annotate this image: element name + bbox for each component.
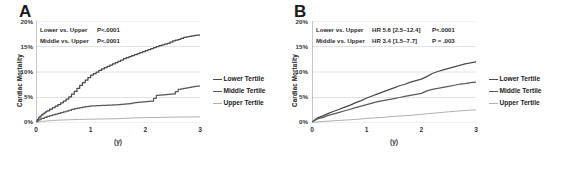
panel-a-legend-item-lower: Lower Tertile <box>213 73 266 85</box>
panel-b-xtick-3: 3 <box>469 127 483 134</box>
panel-a-ytick-0: 0% <box>14 119 33 125</box>
panel-a-ytick-2: 10% <box>14 69 33 75</box>
panel-b-legend-label-middle: Middle Tertile <box>500 88 542 95</box>
panel-b-plot-area <box>312 21 476 123</box>
legend-swatch-lower-icon <box>489 79 498 80</box>
legend-swatch-lower-icon <box>213 79 222 80</box>
figure-container: A Cardiac Mortality 0% 5% 10% 15% 20% Lo… <box>0 0 565 170</box>
panel-b-xtick-1: 1 <box>360 127 374 134</box>
panel-a-xaxis-title: (y) <box>88 139 148 146</box>
panel-a-legend-item-middle: Middle Tertile <box>213 85 266 97</box>
panel-b-xaxis-title: (y) <box>364 139 424 146</box>
panel-a-xtick-2: 2 <box>138 127 152 134</box>
panel-a: A Cardiac Mortality 0% 5% 10% 15% 20% Lo… <box>0 0 283 170</box>
panel-a-legend-label-middle: Middle Tertile <box>224 88 266 95</box>
panel-b-ytick-4: 20% <box>289 19 308 25</box>
legend-swatch-middle-icon <box>213 91 222 92</box>
panel-a-ytick-4: 20% <box>14 19 33 25</box>
panel-b-yaxis-title: Cardiac Mortality <box>291 46 298 116</box>
panel-b-ytick-0: 0% <box>289 119 308 125</box>
legend-swatch-upper-icon <box>489 103 498 104</box>
panel-a-legend-label-lower: Lower Tertile <box>224 76 265 83</box>
panel-a-ytick-3: 15% <box>14 44 33 50</box>
panel-b-xtick-0: 0 <box>305 127 319 134</box>
panel-b-legend-label-upper: Upper Tertile <box>500 100 540 107</box>
legend-swatch-middle-icon <box>489 91 498 92</box>
panel-b-ytick-3: 15% <box>289 44 308 50</box>
panel-a-legend: Lower Tertile Middle Tertile Upper Terti… <box>213 73 266 109</box>
panel-b-xtick-2: 2 <box>414 127 428 134</box>
panel-a-legend-label-upper: Upper Tertile <box>224 100 264 107</box>
panel-a-ytick-1: 5% <box>14 94 33 100</box>
panel-a-xtick-3: 3 <box>193 127 207 134</box>
panel-a-legend-item-upper: Upper Tertile <box>213 97 266 109</box>
panel-a-yaxis-title: Cardiac Mortality <box>16 46 23 116</box>
panel-b-legend-item-upper: Upper Tertile <box>489 97 542 109</box>
legend-swatch-upper-icon <box>213 103 222 104</box>
panel-b-ytick-2: 10% <box>289 69 308 75</box>
panel-a-plot-area <box>36 21 200 123</box>
panel-b-legend-label-lower: Lower Tertile <box>500 76 541 83</box>
panel-a-xtick-1: 1 <box>84 127 98 134</box>
panel-b-legend-item-middle: Middle Tertile <box>489 85 542 97</box>
panel-b: B Cardiac Mortality 0% 5% 10% 15% 20% Lo… <box>283 0 565 170</box>
panel-b-ytick-1: 5% <box>289 94 308 100</box>
panel-b-legend: Lower Tertile Middle Tertile Upper Terti… <box>489 73 542 109</box>
panel-a-xtick-0: 0 <box>29 127 43 134</box>
panel-b-legend-item-lower: Lower Tertile <box>489 73 542 85</box>
